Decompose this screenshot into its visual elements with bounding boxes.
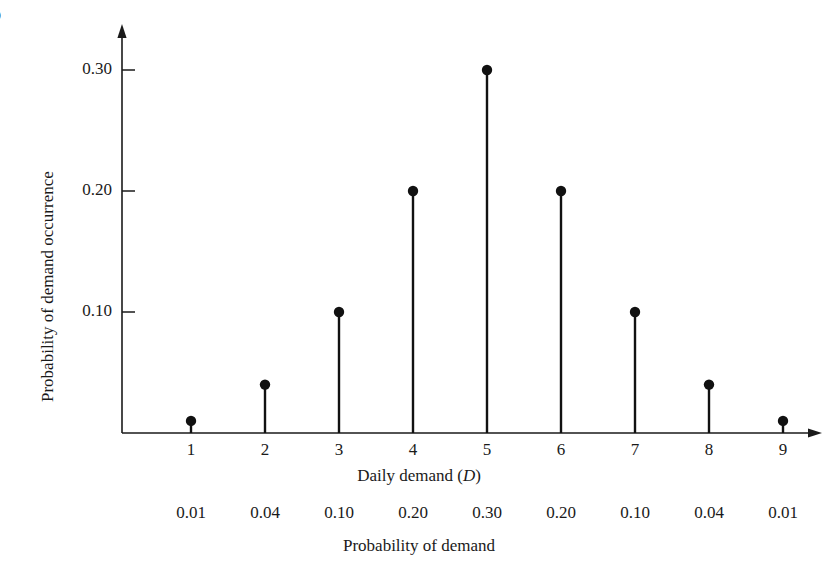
x-tick-label: 2 xyxy=(245,440,285,460)
stem-plot-canvas xyxy=(0,0,838,575)
x-tick-label: 7 xyxy=(615,440,655,460)
data-point-marker xyxy=(334,307,344,317)
probability-value: 0.04 xyxy=(235,503,295,523)
x-tick-label: 1 xyxy=(171,440,211,460)
probability-value: 0.30 xyxy=(457,503,517,523)
x-axis-title-close: ) xyxy=(475,466,481,485)
probability-value: 0.01 xyxy=(753,503,813,523)
x-tick-label: 6 xyxy=(541,440,581,460)
probability-row-caption: Probability of demand xyxy=(0,536,838,556)
x-tick-label: 9 xyxy=(763,440,803,460)
y-tick-label: 0.30 xyxy=(52,59,112,79)
data-point-marker xyxy=(704,379,714,389)
x-axis-title-variable: D xyxy=(463,466,475,485)
data-point-marker xyxy=(408,186,418,196)
x-tick-label: 8 xyxy=(689,440,729,460)
probability-value: 0.20 xyxy=(383,503,443,523)
x-tick-label: 3 xyxy=(319,440,359,460)
probability-value: 0.10 xyxy=(605,503,665,523)
y-tick-label: 0.20 xyxy=(52,180,112,200)
y-tick-marks xyxy=(122,70,135,312)
x-tick-label: 4 xyxy=(393,440,433,460)
x-tick-label: 5 xyxy=(467,440,507,460)
x-axis-title-text: Daily demand ( xyxy=(357,466,463,485)
data-point-marker xyxy=(778,416,788,426)
probability-value: 0.01 xyxy=(161,503,221,523)
x-axis-title: Daily demand (D) xyxy=(0,466,838,486)
data-point-marker xyxy=(186,416,196,426)
y-axis-title: Probability of demand occurrence xyxy=(38,171,58,402)
y-tick-label: 0.10 xyxy=(52,301,112,321)
x-axis-arrowhead xyxy=(808,428,822,437)
stem-lines xyxy=(191,70,783,433)
probability-value: 0.10 xyxy=(309,503,369,523)
probability-value: 0.20 xyxy=(531,503,591,523)
data-point-marker xyxy=(556,186,566,196)
probability-value: 0.04 xyxy=(679,503,739,523)
data-point-marker xyxy=(260,379,270,389)
figure-root: 5 n 0.300.200.10 123456789 Probability o… xyxy=(0,0,838,575)
axis-group xyxy=(117,24,822,438)
y-axis-arrowhead xyxy=(117,24,126,38)
data-point-marker xyxy=(482,65,492,75)
data-point-marker xyxy=(630,307,640,317)
